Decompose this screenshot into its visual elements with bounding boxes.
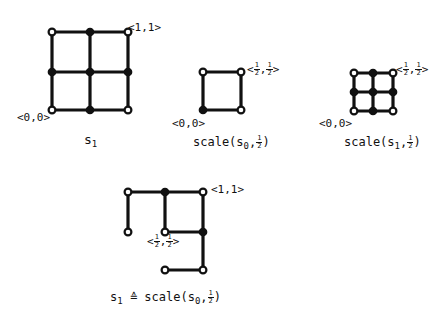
scale-s1-top-right-label: <12,12>	[396, 62, 428, 77]
s1-node-filled	[48, 68, 55, 75]
s1-node-filled	[86, 28, 93, 35]
s1-equiv-node-open	[200, 267, 207, 274]
scale-s1-node-open	[351, 70, 358, 77]
scale-s0-caption: scale(s0,12)	[193, 135, 270, 151]
s1-equiv-node-open	[125, 229, 132, 236]
scale-s1-node-filled	[369, 88, 376, 95]
s1-node-open	[125, 107, 132, 114]
scale-s1-node-filled	[389, 88, 396, 95]
scale-s0-top-right-label: <12,12>	[247, 62, 279, 77]
s1-equiv-node-open	[200, 189, 207, 196]
s1-node-filled	[124, 68, 131, 75]
s1-node-filled	[86, 106, 93, 113]
scale-s0-origin-label: <0,0>	[172, 118, 205, 129]
scale-s1-origin-label: <0,0>	[319, 118, 352, 129]
scale-s1-caption: scale(s1,12)	[344, 135, 421, 151]
equiv-top-right-label: <1,1>	[211, 184, 244, 195]
s1-origin-label: <0,0>	[17, 112, 50, 123]
scale-s1-node-filled	[369, 69, 376, 76]
s1-equiv-node-open	[125, 189, 132, 196]
s1-equiv-node-filled	[199, 228, 206, 235]
s1-caption: s1	[84, 133, 97, 149]
s1-equiv-node-open	[162, 267, 169, 274]
diagram-canvas	[0, 0, 444, 314]
scale-s1-node-filled	[369, 107, 376, 114]
s1-equiv-node-filled	[161, 188, 168, 195]
scale-s1-node-filled	[350, 88, 357, 95]
equiv-inner-label: <12,12>	[147, 234, 179, 249]
equiv-caption: s1 ≙ scale(s0,12)	[110, 290, 221, 306]
scale-s1-node-open	[390, 108, 397, 115]
scale-s1-node-open	[351, 108, 358, 115]
scale-s0-node-filled	[199, 106, 206, 113]
s1-top-right-label: <1,1>	[128, 22, 161, 33]
scale-s0-node-open	[238, 69, 245, 76]
scale-s0-node-open	[238, 107, 245, 114]
graph-edges	[52, 32, 393, 270]
s1-node-open	[49, 29, 56, 36]
s1-node-filled	[86, 68, 93, 75]
scale-s0-node-open	[200, 69, 207, 76]
